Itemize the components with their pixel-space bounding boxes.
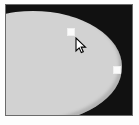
image-canvas[interactable] (5, 4, 133, 116)
resize-handle-right[interactable] (113, 66, 121, 74)
screenshot-root (0, 0, 139, 125)
resize-handle-top[interactable] (67, 28, 75, 36)
